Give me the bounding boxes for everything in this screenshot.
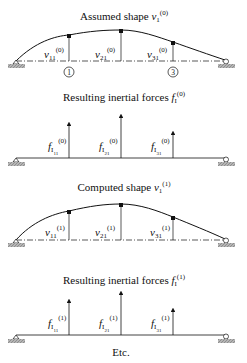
mass-node-1 bbox=[67, 210, 71, 214]
footer-etc: Etc. bbox=[112, 346, 130, 358]
displacement-label-3: v31(0) bbox=[147, 46, 168, 62]
mass-node-2 bbox=[119, 29, 123, 33]
displacement-label-1: v11(0) bbox=[44, 46, 64, 62]
force-label-3: fI31(1) bbox=[151, 314, 170, 333]
pin-support-icon bbox=[8, 335, 25, 343]
displacement-label-2: v21(1) bbox=[95, 224, 116, 240]
force-label-2: fI21(0) bbox=[99, 137, 118, 156]
panel-inertial-forces-1: Resulting inertial forces fI(1) fI11(1) … bbox=[8, 273, 235, 343]
mass-node-1 bbox=[67, 34, 71, 38]
roller-support-icon bbox=[218, 238, 235, 247]
mass-node-3 bbox=[171, 41, 175, 45]
force-label-2: fI21(1) bbox=[99, 314, 118, 333]
pin-support-icon bbox=[8, 60, 25, 68]
displacement-label-1: v11(1) bbox=[45, 224, 65, 240]
panel-title: Assumed shape v1(0) bbox=[80, 9, 169, 24]
panel-title: Computed shape v1(1) bbox=[78, 180, 172, 195]
panel-computed-shape: Computed shape v1(1) v11(1) v21(1) v31(1… bbox=[8, 180, 235, 247]
displacement-label-2: v21(0) bbox=[95, 46, 116, 62]
mass-node-2 bbox=[119, 203, 123, 207]
displacement-label-3: v31(1) bbox=[150, 224, 171, 240]
force-label-1: fI11(0) bbox=[48, 137, 67, 156]
force-label-1: fI11(1) bbox=[48, 314, 67, 333]
pin-support-icon bbox=[8, 239, 25, 247]
panel-title: Resulting inertial forces fI(1) bbox=[63, 273, 186, 288]
node-marker-3-label: 3 bbox=[171, 68, 175, 77]
roller-support-icon bbox=[218, 59, 235, 68]
mass-node-3 bbox=[171, 216, 175, 220]
iteration-diagram: Assumed shape v1(0) v11(0) v21(0) v31(0)… bbox=[0, 0, 247, 363]
panel-title: Resulting inertial forces fI(0) bbox=[63, 90, 186, 105]
force-label-3: fI31(0) bbox=[151, 137, 170, 156]
panel-assumed-shape: Assumed shape v1(0) v11(0) v21(0) v31(0)… bbox=[8, 9, 235, 77]
panel-inertial-forces-0: Resulting inertial forces fI(0) fI11(0) … bbox=[8, 90, 235, 166]
node-marker-1-label: 1 bbox=[67, 68, 71, 77]
pin-support-icon bbox=[8, 158, 25, 166]
